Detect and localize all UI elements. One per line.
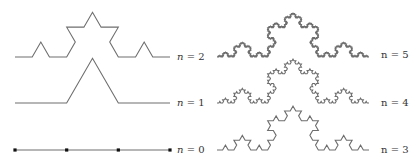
label-n3: n = 3 bbox=[381, 145, 409, 155]
subdivision-dot bbox=[65, 148, 68, 151]
subdivision-dot bbox=[117, 148, 120, 151]
right-panel bbox=[217, 13, 369, 150]
subdivision-dot bbox=[13, 148, 16, 151]
label-value: = 4 bbox=[387, 97, 408, 108]
label-n1: n = 1 bbox=[177, 98, 205, 108]
label-value: = 5 bbox=[387, 49, 408, 60]
subdivision-dot bbox=[168, 148, 171, 151]
label-value: = 1 bbox=[183, 97, 204, 108]
label-n2: n = 2 bbox=[177, 52, 205, 62]
label-n5: n = 5 bbox=[381, 50, 409, 60]
label-value: = 3 bbox=[387, 144, 408, 155]
label-n4: n = 4 bbox=[381, 98, 409, 108]
koch-curve-n5 bbox=[217, 13, 369, 57]
left-panel bbox=[13, 12, 171, 151]
koch-curve-figure bbox=[0, 0, 411, 168]
label-n0: n = 0 bbox=[177, 145, 205, 155]
koch-curve-n1 bbox=[15, 58, 170, 103]
koch-curve-n4 bbox=[217, 59, 369, 103]
koch-curve-n3 bbox=[217, 106, 369, 150]
label-value: = 0 bbox=[183, 144, 204, 155]
label-value: = 2 bbox=[183, 51, 204, 62]
koch-curve-n2 bbox=[15, 12, 170, 57]
